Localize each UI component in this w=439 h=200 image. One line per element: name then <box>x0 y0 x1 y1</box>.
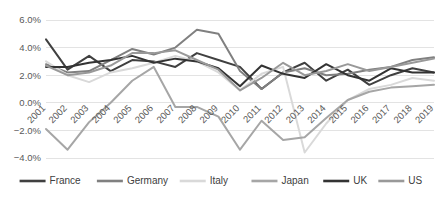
legend-item-us[interactable]: US <box>378 175 422 186</box>
y-axis-tick-labels: 6.0%4.0%2.0%0.0%−2.0%−4.0% <box>14 14 42 163</box>
x-axis-tick-label: 2018 <box>391 102 414 125</box>
legend-label: Japan <box>281 175 308 186</box>
legend-label: US <box>408 175 422 186</box>
series-line-germany <box>46 30 434 89</box>
legend-item-japan[interactable]: Japan <box>251 175 308 186</box>
x-axis-tick-label: 2017 <box>370 102 393 125</box>
x-axis-tick-label: 2011 <box>241 102 263 124</box>
x-axis-tick-label: 2006 <box>132 102 155 125</box>
y-axis-tick-label: −2.0% <box>14 125 42 136</box>
y-axis-tick-label: 4.0% <box>19 42 41 53</box>
legend-label: Italy <box>210 175 228 186</box>
legend-item-france[interactable]: France <box>20 175 82 186</box>
legend-label: France <box>50 175 82 186</box>
x-axis-tick-label: 2010 <box>219 102 242 125</box>
legend-label: Germany <box>127 175 168 186</box>
x-axis-tick-label: 2013 <box>283 102 306 125</box>
x-axis-tick-labels: 2001200220032004200520062007200820092010… <box>25 102 436 125</box>
x-axis-tick-label: 2002 <box>46 102 69 125</box>
x-axis-tick-label: 2003 <box>68 102 91 125</box>
x-axis-tick-label: 2016 <box>348 102 371 125</box>
x-axis-tick-label: 2015 <box>326 102 349 125</box>
chart-canvas: 6.0%4.0%2.0%0.0%−2.0%−4.0% 2001200220032… <box>0 0 439 200</box>
line-chart: 6.0%4.0%2.0%0.0%−2.0%−4.0% 2001200220032… <box>0 0 439 200</box>
x-axis-tick-label: 2012 <box>262 102 285 125</box>
legend-item-uk[interactable]: UK <box>323 175 367 186</box>
legend-item-germany[interactable]: Germany <box>97 175 168 186</box>
x-axis-tick-label: 2019 <box>413 102 436 125</box>
y-axis-tick-label: 2.0% <box>19 70 41 81</box>
x-axis-tick-label: 2005 <box>111 102 134 125</box>
y-axis-tick-label: 6.0% <box>19 14 41 25</box>
legend-label: UK <box>353 175 367 186</box>
legend: FranceGermanyItalyJapanUKUS <box>20 175 423 186</box>
x-axis-tick-label: 2007 <box>154 102 177 125</box>
legend-item-italy[interactable]: Italy <box>180 175 228 186</box>
x-axis-tick-label: 2009 <box>197 102 220 125</box>
x-axis-tick-label: 2008 <box>176 102 199 125</box>
x-axis-tick-label: 2014 <box>305 102 328 125</box>
y-axis-tick-label: −4.0% <box>14 152 42 163</box>
